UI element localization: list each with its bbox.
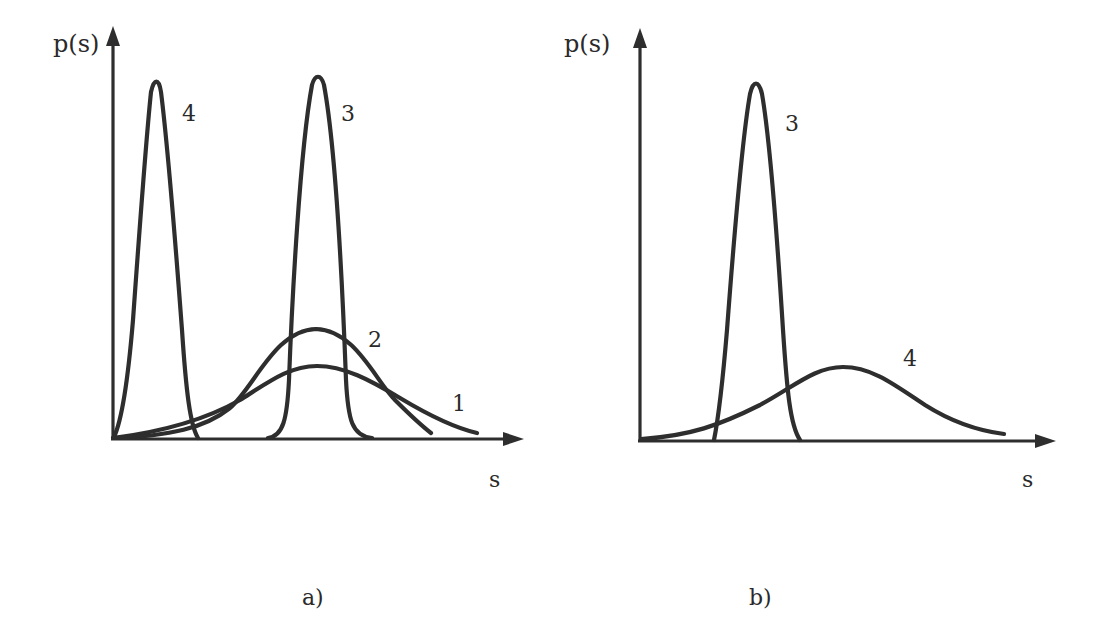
- curve-label-3-a: 3: [341, 101, 355, 126]
- y-axis-arrow-a: [106, 26, 120, 46]
- curve-2-a: [113, 329, 431, 438]
- caption-b: b): [749, 585, 772, 610]
- x-axis-label-a: s: [489, 467, 500, 492]
- panel-a: p(s) s 4 3 2 1 a): [53, 26, 524, 610]
- x-axis-label-b: s: [1022, 467, 1033, 492]
- figure: p(s) s 4 3 2 1 a) p(s) s 3 4 b): [0, 0, 1106, 644]
- x-axis-arrow-a: [503, 432, 524, 446]
- curve-4-b: [641, 367, 1004, 439]
- panel-b: p(s) s 3 4 b): [564, 28, 1056, 610]
- curve-label-4-b: 4: [903, 346, 917, 371]
- curve-label-3-b: 3: [785, 111, 799, 136]
- y-axis-label-a: p(s): [53, 30, 99, 58]
- y-axis-arrow-b: [633, 28, 647, 48]
- y-axis-label-b: p(s): [564, 30, 610, 58]
- curve-4-a: [114, 82, 198, 439]
- curve-label-1-a: 1: [452, 391, 466, 416]
- curve-3-b: [714, 84, 800, 441]
- x-axis-arrow-b: [1035, 434, 1056, 448]
- curve-label-2-a: 2: [368, 327, 382, 352]
- curve-label-4-a: 4: [182, 101, 196, 126]
- caption-a: a): [302, 585, 324, 610]
- curve-3-a: [268, 77, 372, 438]
